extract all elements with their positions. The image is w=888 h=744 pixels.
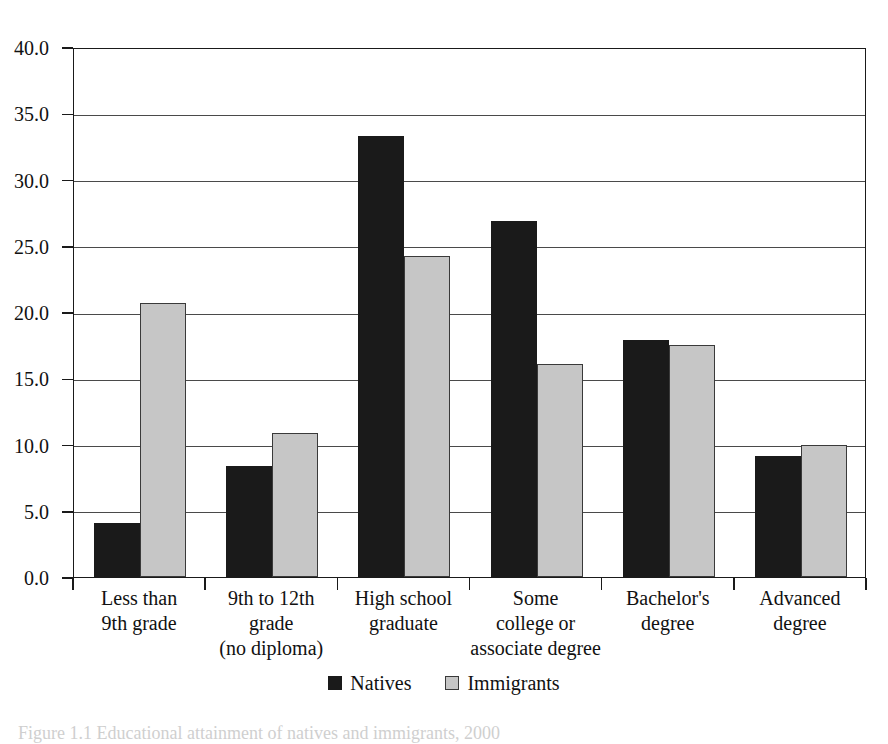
y-tick-mark	[62, 47, 73, 49]
x-tick-label-line: High school	[327, 586, 479, 611]
y-tick-label: 20.0	[14, 303, 49, 323]
x-tick-label-2: 9th to 12thgrade(no diploma)	[195, 586, 347, 661]
x-tick-label-3: High schoolgraduate	[327, 586, 479, 636]
gray-square-icon	[445, 676, 459, 690]
bar-immigrants-1	[140, 303, 186, 577]
chart-legend: NativesImmigrants	[0, 673, 888, 693]
y-tick-label: 15.0	[14, 369, 49, 389]
x-tick-label-line: degree	[724, 611, 876, 636]
bar-immigrants-5	[669, 345, 715, 577]
x-tick-label-5: Bachelor'sdegree	[592, 586, 744, 636]
legend-entry-natives: Natives	[328, 673, 411, 693]
y-tick-mark	[62, 246, 73, 248]
x-tick-label-line: 9th grade	[63, 611, 215, 636]
bar-natives-6	[755, 456, 801, 577]
x-tick-label-line: college or	[460, 611, 612, 636]
figure-caption: Figure 1.1 Educational attainment of nat…	[18, 722, 878, 744]
bar-immigrants-6	[801, 445, 847, 578]
y-tick-mark	[62, 180, 73, 182]
y-tick-mark	[62, 114, 73, 116]
x-tick-label-line: Less than	[63, 586, 215, 611]
y-tick-label: 30.0	[14, 171, 49, 191]
y-tick-label: 10.0	[14, 436, 49, 456]
y-tick-label: 0.0	[24, 568, 49, 588]
bar-natives-2	[226, 466, 272, 577]
bar-natives-4	[491, 221, 537, 577]
x-tick-label-line: (no diploma)	[195, 636, 347, 661]
y-tick-label: 35.0	[14, 104, 49, 124]
x-tick-label-line: Advanced	[724, 586, 876, 611]
y-tick-label: 25.0	[14, 237, 49, 257]
y-tick-mark	[62, 445, 73, 447]
y-tick-mark	[62, 511, 73, 513]
bars-layer	[74, 49, 865, 577]
x-tick-label-line: Some	[460, 586, 612, 611]
bar-natives-3	[358, 136, 404, 577]
y-tick-mark	[62, 379, 73, 381]
x-tick-label-4: Somecollege orassociate degree	[460, 586, 612, 661]
y-tick-label: 40.0	[14, 38, 49, 58]
x-axis: Less than9th grade9th to 12thgrade(no di…	[73, 586, 866, 672]
x-tick-label-line: Bachelor's	[592, 586, 744, 611]
bar-immigrants-3	[404, 256, 450, 577]
black-square-icon	[328, 676, 342, 690]
y-tick-label: 5.0	[24, 502, 49, 522]
bar-natives-1	[94, 523, 140, 577]
x-tick-label-line: associate degree	[460, 636, 612, 661]
plot-area	[73, 48, 866, 578]
bar-immigrants-4	[537, 364, 583, 577]
bar-natives-5	[623, 340, 669, 577]
y-tick-mark	[62, 312, 73, 314]
legend-label: Immigrants	[467, 673, 559, 693]
x-tick-label-line: graduate	[327, 611, 479, 636]
x-tick-label-line: degree	[592, 611, 744, 636]
bar-immigrants-2	[272, 433, 318, 577]
x-tick-label-line: grade	[195, 611, 347, 636]
x-tick-label-6: Advanceddegree	[724, 586, 876, 636]
legend-label: Natives	[350, 673, 411, 693]
legend-entry-immigrants: Immigrants	[445, 673, 559, 693]
x-tick-label-1: Less than9th grade	[63, 586, 215, 636]
x-tick-label-line: 9th to 12th	[195, 586, 347, 611]
